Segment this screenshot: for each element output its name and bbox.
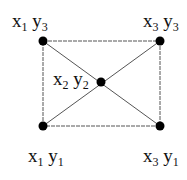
node-br [156, 122, 165, 131]
node-c [97, 78, 106, 87]
node-label-tr: x3 y3 [143, 10, 179, 34]
node-label-c: x2 y2 [53, 68, 89, 92]
node-tr [156, 37, 165, 46]
node-label-tl: x1 y3 [12, 10, 48, 34]
node-label-bl: x1 y1 [28, 145, 64, 169]
graph-canvas: x1 y3x3 y3x2 y2x1 y1x3 y1 [0, 0, 187, 180]
diagram: x1 y3x3 y3x2 y2x1 y1x3 y1 [0, 0, 187, 180]
node-label-br: x3 y1 [143, 145, 179, 169]
node-tl [39, 37, 48, 46]
node-bl [39, 122, 48, 131]
